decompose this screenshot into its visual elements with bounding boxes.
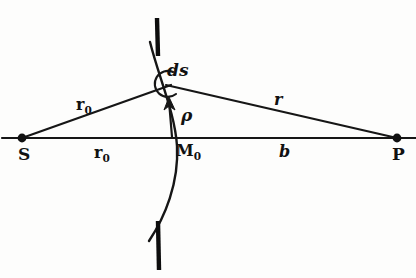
label-zone-radius-rho: ρ: [181, 107, 192, 124]
label-observation-p: P: [392, 146, 405, 163]
label-distance-r0-axis: r0: [94, 145, 110, 164]
label-point-m0-subscript: 0: [194, 150, 201, 162]
aperture-edge-bottom: [158, 221, 159, 270]
diagram-canvas: [0, 0, 416, 278]
label-distance-r0-ray-subscript: 0: [84, 104, 91, 116]
label-point-m0: M0: [176, 143, 201, 162]
label-distance-r0-axis-subscript: 0: [102, 152, 109, 164]
figure-root: S P M0 r0 r0 r b ds ρ: [0, 0, 416, 278]
incident-ray-r0: [22, 85, 171, 138]
label-distance-r: r: [274, 92, 282, 108]
label-point-m0-main: M: [176, 141, 194, 160]
label-surface-element-ds: ds: [167, 62, 188, 79]
label-source-s: S: [18, 146, 30, 163]
point-dot-s: [18, 134, 27, 143]
aperture-edge-top: [157, 18, 158, 56]
point-dot-p: [393, 134, 402, 143]
label-distance-r0-ray: r0: [76, 97, 92, 116]
label-distance-b: b: [279, 144, 290, 160]
